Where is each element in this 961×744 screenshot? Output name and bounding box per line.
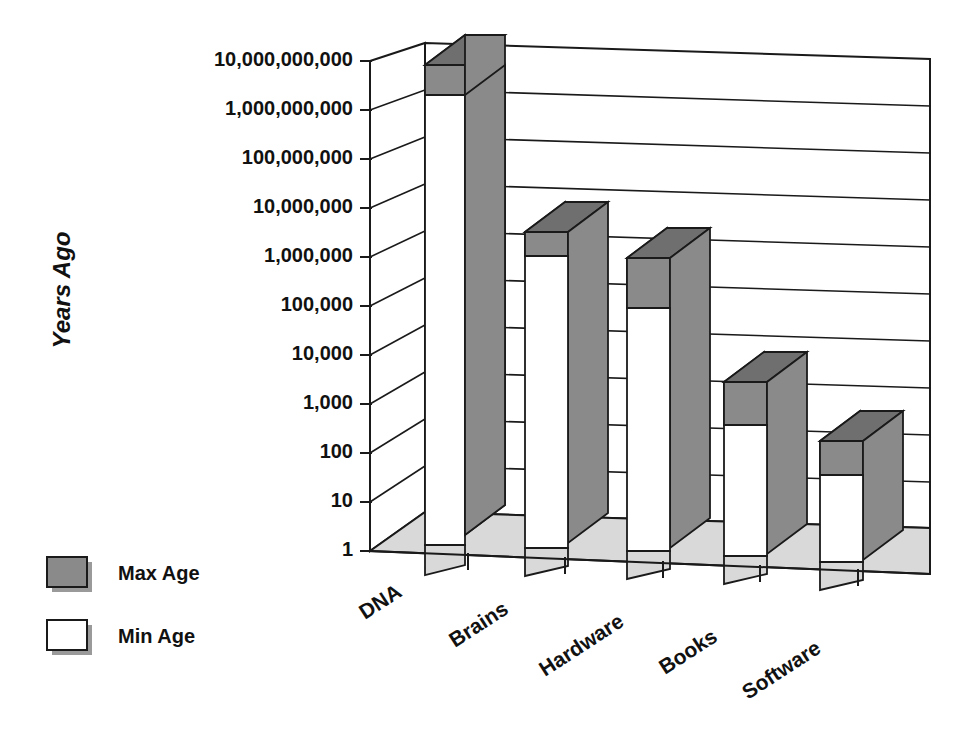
bar-hardware[interactable] [627, 228, 710, 579]
bar-dna[interactable] [425, 35, 505, 575]
y-tick-label: 100 [320, 440, 353, 462]
bar-dna-min-right [465, 65, 505, 535]
legend-swatch-min-age [47, 620, 87, 650]
bar-dna-min-front [425, 95, 465, 545]
y-tick-label: 10,000,000,000 [214, 48, 353, 70]
x-tick-label-dna: DNA [355, 579, 406, 623]
bar-brains-min-front [525, 256, 568, 548]
bar-brains-max-front [525, 232, 568, 256]
x-tick-label-hardware: Hardware [535, 609, 628, 680]
bar-books-min-front [724, 425, 767, 556]
bar-brains-base-shadow [525, 548, 568, 576]
y-tick-label: 1,000,000,000 [225, 97, 353, 119]
bar-dna-max-front [425, 65, 465, 95]
legend: Max Age Min Age [47, 557, 200, 655]
y-tick-label: 100,000 [281, 293, 353, 315]
bar-books-max-right [767, 352, 807, 554]
bar-dna-base-shadow [425, 545, 465, 575]
plot-side-wall [370, 43, 425, 551]
y-tick-label: 10,000 [292, 342, 353, 364]
y-tick-label: 1 [342, 538, 353, 560]
x-tick-label-brains: Brains [445, 596, 512, 651]
x-tick-label-software: Software [738, 636, 825, 704]
bar-books-max-front [724, 382, 767, 425]
bar-hardware-min-front [627, 308, 670, 551]
bar-brains-max-right [568, 202, 608, 543]
chart-figure: 10,000,000,000 1,000,000,000 100,000,000… [0, 0, 961, 744]
legend-label-min-age: Min Age [118, 625, 195, 647]
x-tick-label-books: Books [655, 624, 721, 678]
bar-software-min-front [820, 475, 863, 562]
y-tick-label: 1,000,000 [264, 244, 353, 266]
bar-software-max-front [820, 441, 863, 475]
y-tick-label: 100,000,000 [242, 146, 353, 168]
legend-item-min-age[interactable]: Min Age [47, 620, 195, 655]
chart-svg: 10,000,000,000 1,000,000,000 100,000,000… [0, 0, 961, 744]
y-axis-title: Years Ago [48, 232, 75, 349]
y-tick-label: 10 [331, 489, 353, 511]
bar-brains[interactable] [525, 202, 608, 576]
y-tick-labels: 10,000,000,000 1,000,000,000 100,000,000… [214, 48, 353, 560]
legend-label-max-age: Max Age [118, 562, 200, 584]
y-tick-label: 1,000 [303, 391, 353, 413]
legend-swatch-max-age [47, 557, 87, 587]
legend-item-max-age[interactable]: Max Age [47, 557, 200, 592]
bar-hardware-max-right [670, 228, 710, 548]
x-tick-labels: DNA Brains Hardware Books Software [355, 579, 825, 703]
bar-software-base-shadow [820, 562, 863, 590]
bar-hardware-max-front [627, 258, 670, 308]
y-axis [360, 61, 372, 551]
y-tick-label: 10,000,000 [253, 195, 353, 217]
